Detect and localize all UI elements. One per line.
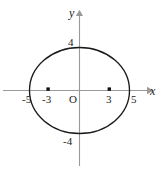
origin-label: O bbox=[69, 94, 77, 105]
x-tick-label-3: 3 bbox=[106, 94, 112, 105]
x-tick-label-minus3: -3 bbox=[42, 94, 51, 105]
y-tick-label-4: 4 bbox=[68, 37, 74, 48]
focus-point-left bbox=[46, 87, 49, 90]
plot-canvas bbox=[0, 0, 164, 177]
y-axis-label: y bbox=[69, 7, 74, 19]
focus-point-right bbox=[108, 87, 111, 90]
x-axis-label: x bbox=[150, 85, 155, 97]
ellipse-figure: y x O -5 -3 3 5 4 -4 bbox=[0, 0, 164, 177]
y-axis-arrow-icon bbox=[76, 10, 83, 16]
x-tick-label-5: 5 bbox=[131, 94, 137, 105]
y-tick-label-minus4: -4 bbox=[63, 136, 72, 147]
x-tick-label-minus5: -5 bbox=[22, 94, 31, 105]
